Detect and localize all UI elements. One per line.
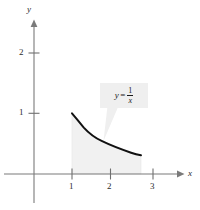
x-tick-label-1: 1: [69, 182, 74, 191]
y-tick-label-1: 1: [19, 108, 24, 117]
y-tick-label-2: 2: [19, 48, 24, 57]
x-tick-label-2: 2: [107, 182, 112, 191]
equation-y-equals-one-over-x: y = 1 x: [115, 87, 134, 105]
equation-equals-sign: =: [120, 91, 125, 100]
x-tick-label-3: 3: [150, 182, 155, 191]
fraction-denominator: x: [128, 96, 134, 105]
equation-callout: y = 1 x: [100, 83, 148, 108]
fraction-numerator: 1: [127, 87, 133, 96]
x-axis-label: x: [188, 169, 192, 178]
y-axis-label: y: [27, 5, 31, 14]
fraction-one-over-x: 1 x: [127, 87, 133, 105]
x-axis-arrowhead: [177, 171, 185, 178]
equation-variable: y: [115, 91, 119, 100]
y-axis-arrowhead: [31, 20, 38, 28]
figure-container: y x 1 2 1 2 3 y = 1 x: [0, 0, 200, 210]
callout-pointer: [104, 106, 119, 141]
